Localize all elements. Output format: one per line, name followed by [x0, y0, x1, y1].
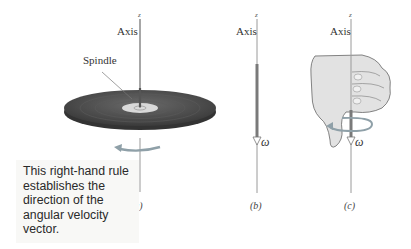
omega-label-b: ω⃗ [261, 135, 279, 150]
axis-label-b: Axis [236, 25, 257, 37]
axis-label-c: Axis [330, 25, 351, 37]
figure-caption: This right-hand rule establishes the dir… [16, 160, 139, 243]
panel-label-c: (c) [344, 200, 355, 211]
spindle-label: Spindle [83, 54, 117, 66]
z-label-c: z [349, 11, 352, 19]
panel-b-graphics [253, 19, 261, 193]
axis-label-a: Axis [117, 25, 138, 37]
z-label-a: z [138, 11, 141, 19]
panel-c-graphics [311, 19, 391, 193]
panel-label-b: (b) [250, 200, 262, 211]
omega-label-c: ω⃗ [355, 135, 373, 150]
z-label-b: z [255, 11, 258, 19]
right-hand-rule-figure: z Axis Spindle (a) z Axis ω⃗ (b) z Axis … [0, 0, 411, 249]
